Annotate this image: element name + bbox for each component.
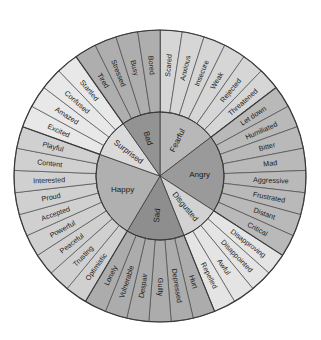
category-label-happy: Happy — [111, 185, 134, 194]
feeling-label-bored: Bored — [146, 55, 156, 75]
feeling-label-scared: Scared — [163, 54, 174, 77]
feeling-label-interested: Interested — [33, 175, 65, 185]
feeling-label-aggressive: Aggressive — [253, 175, 289, 185]
category-label-angry: Angry — [189, 170, 210, 179]
feeling-label-mad: Mad — [263, 158, 278, 169]
category-label-sad: Sad — [152, 208, 162, 223]
feelings-wheel-container: ScaredAnxiousInsecureWeakRejectedThreate… — [0, 0, 321, 340]
feelings-wheel: ScaredAnxiousInsecureWeakRejectedThreate… — [0, 0, 321, 340]
feeling-label-guilty: Guilty — [156, 278, 165, 297]
